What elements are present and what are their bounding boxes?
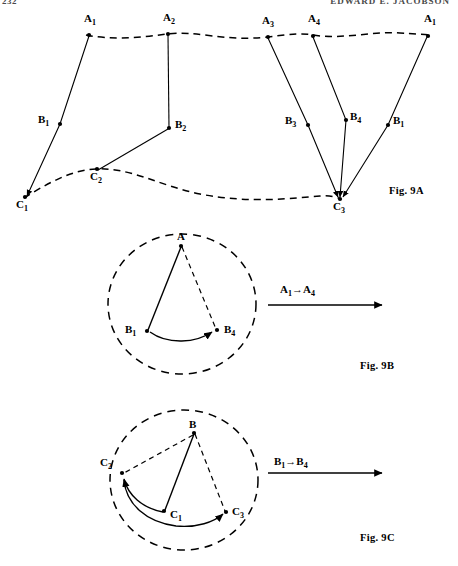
fig-9c-dashed-circle [110,410,258,550]
node-b2 [167,126,171,130]
label-fig9c-b: B [189,418,196,433]
fig-9b-caption: Fig. 9B [360,360,394,371]
lower-dashed-locus [24,169,341,200]
node-b4 [215,328,219,332]
label-fig9b-a: A [177,230,185,245]
label-c3: C3 [333,200,345,215]
segment-b-c1 [165,434,194,510]
label-b3: B3 [285,114,296,129]
label-c1: C1 [16,198,28,213]
arc-arrow-c1-c2 [124,479,163,512]
label-fig9c-c2: C2 [100,456,112,471]
fig-9a-caption: Fig. 9A [389,185,424,196]
node-b3 [306,123,310,127]
label-b1-right: B1 [393,114,404,129]
label-a1-right: A1 [424,12,436,27]
segment-b-c2-dashed [124,435,193,473]
chain-a3-b3-c3 [268,38,338,197]
segment-a-b1 [148,247,181,330]
fig-9b-transition-label: A1→A4 [280,283,315,298]
label-fig9c-c3: C3 [232,505,244,520]
label-fig9b-b1: B1 [125,323,136,338]
label-fig9c-c1: C1 [170,508,182,523]
upper-dashed-locus [86,33,429,39]
chain-a4-b4-c3 [313,37,346,197]
label-c2: C2 [90,170,102,185]
node-a1-left [87,33,91,37]
label-fig9b-b4: B4 [224,323,235,338]
node-b1 [145,329,149,333]
node-a2 [166,32,170,36]
label-a1-left: A1 [84,12,96,27]
segment-b2-c2 [98,129,168,170]
label-b2: B2 [175,118,186,133]
label-a3: A3 [262,14,274,29]
label-a4: A4 [308,12,320,27]
node-b1-left [58,122,62,126]
label-a2: A2 [163,11,175,26]
figure-page: 232 EDWARD E. JACOBSON [0,0,458,566]
node-b4 [344,118,348,122]
node-b1-right [386,123,390,127]
segment-a2-b2 [168,35,169,128]
fig-9b-dashed-circle [108,234,256,374]
label-b4: B4 [350,110,361,125]
label-b1-left: B1 [38,113,49,128]
node-c3 [224,510,228,514]
segment-b-c3-dashed [195,434,225,511]
node-a4 [311,34,315,38]
arc-arrow-b1-b4 [150,332,212,341]
segment-a-b4-dashed [182,247,216,329]
node-c1 [162,509,166,513]
node-a1-right [426,34,430,38]
fig-9c-caption: Fig. 9C [360,532,395,543]
node-a3 [266,35,270,39]
node-c2 [120,471,124,475]
fig-9c-transition-label: B1→B4 [274,455,308,470]
